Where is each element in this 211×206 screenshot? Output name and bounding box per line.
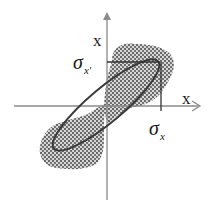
sigma-subscript: x' xyxy=(84,64,91,76)
axes xyxy=(14,12,200,200)
sigma-x-prime-label: σx' xyxy=(73,52,90,72)
sigma-symbol: σ xyxy=(73,51,83,73)
vertical-axis-arrow-icon xyxy=(103,12,111,20)
sigma-symbol: σ xyxy=(149,117,159,139)
diagram-graphics xyxy=(0,0,211,206)
phase-space-diagram: x x σx' σx xyxy=(0,0,211,206)
upper-lobe xyxy=(104,44,174,124)
vertical-axis-label: x xyxy=(93,32,102,49)
sigma-subscript: x xyxy=(160,130,165,142)
horizontal-axis-label: x xyxy=(182,90,191,107)
sigma-x-label: σx xyxy=(149,118,164,138)
